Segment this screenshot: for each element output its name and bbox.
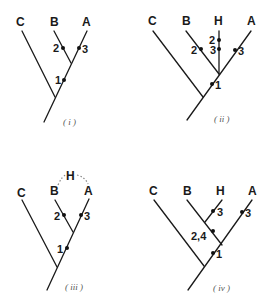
character-dot xyxy=(210,82,214,86)
branch-c xyxy=(22,200,57,267)
character-dot xyxy=(211,229,215,233)
character-label: 1 xyxy=(57,243,63,255)
character-dot xyxy=(79,213,83,217)
branch-c xyxy=(22,31,55,97)
taxon-label-h: H xyxy=(216,184,225,198)
character-dot xyxy=(233,48,237,52)
character-dot xyxy=(211,209,215,213)
taxon-label-c: C xyxy=(17,186,26,200)
panel-caption: ( ii ) xyxy=(214,114,230,124)
character-label: 1 xyxy=(55,74,61,86)
hybrid-link-b-h xyxy=(58,175,66,185)
character-dot xyxy=(211,251,215,255)
panel-ii: C B H A 2 3 2 3 1 ( ii ) xyxy=(148,14,256,124)
taxon-label-a: A xyxy=(247,14,256,28)
panel-caption: ( iii ) xyxy=(65,282,83,292)
taxon-label-b: B xyxy=(50,15,59,29)
character-label: 1 xyxy=(216,248,222,260)
taxon-label-h: H xyxy=(214,14,223,28)
branch-c xyxy=(153,31,203,97)
character-label: 3 xyxy=(84,210,90,222)
character-dot xyxy=(61,46,65,50)
hybrid-link-h-a xyxy=(77,175,88,184)
character-dot xyxy=(199,47,203,51)
taxon-label-b: B xyxy=(183,184,192,198)
character-label: 3 xyxy=(217,206,223,218)
character-dot xyxy=(65,246,69,250)
panel-iii: H B A C 2 3 1 ( iii ) xyxy=(17,169,93,292)
character-dot xyxy=(240,210,244,214)
taxon-label-h: H xyxy=(66,169,75,183)
character-dot xyxy=(62,213,66,217)
character-label: 3 xyxy=(210,44,216,56)
character-dot xyxy=(77,46,81,50)
cladogram-figure: C B A 2 3 1 ( i ) C B H A 2 3 2 3 1 ( ii… xyxy=(0,0,269,304)
character-dot xyxy=(62,78,66,82)
taxon-label-a: A xyxy=(82,15,91,29)
taxon-label-b: B xyxy=(182,14,191,28)
branch-a-stem xyxy=(44,31,87,122)
character-dot xyxy=(217,47,221,51)
character-label: 2 xyxy=(191,44,197,56)
character-label: 3 xyxy=(238,45,244,57)
panel-caption: ( iv ) xyxy=(213,283,230,293)
taxon-label-b: B xyxy=(50,184,59,198)
character-dot xyxy=(217,38,221,42)
character-label: 3 xyxy=(82,43,88,55)
panel-i: C B A 2 3 1 ( i ) xyxy=(16,15,91,127)
taxon-label-c: C xyxy=(149,184,158,198)
character-label: 2 xyxy=(53,42,59,54)
taxon-label-a: A xyxy=(84,184,93,198)
panel-iv: C B H A 3 3 2,4 1 ( iv ) xyxy=(149,184,257,293)
panel-caption: ( i ) xyxy=(63,117,76,127)
taxon-label-a: A xyxy=(248,184,257,198)
taxon-label-c: C xyxy=(16,15,25,29)
character-label: 3 xyxy=(245,207,251,219)
character-label: 1 xyxy=(215,79,221,91)
taxon-label-c: C xyxy=(148,14,157,28)
character-label: 2,4 xyxy=(191,230,207,242)
character-label: 2 xyxy=(54,210,60,222)
